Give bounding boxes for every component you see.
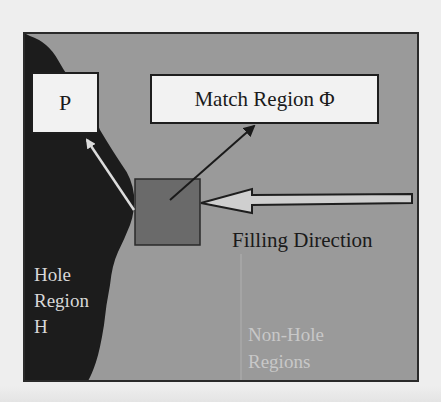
hole-filling-diagram <box>0 0 441 402</box>
hole-label-line: H <box>34 314 104 340</box>
filling-direction-label: Filling Direction <box>232 230 373 251</box>
hole-label-line: Hole <box>34 262 104 288</box>
non-hole-regions-label: Non-Hole Regions <box>248 322 368 376</box>
match-region-label: Match Region Φ <box>194 87 334 112</box>
hole-label-line: Region <box>34 288 104 314</box>
page-bleed-through <box>0 386 441 402</box>
hole-region-label: Hole Region H <box>34 262 104 341</box>
patch-p-box: P <box>31 72 99 134</box>
patch-p-label: P <box>59 90 71 116</box>
non-hole-label-line: Non-Hole <box>248 322 368 349</box>
patch-square <box>135 179 200 245</box>
match-region-box: Match Region Φ <box>150 74 379 124</box>
non-hole-label-line: Regions <box>248 349 368 376</box>
